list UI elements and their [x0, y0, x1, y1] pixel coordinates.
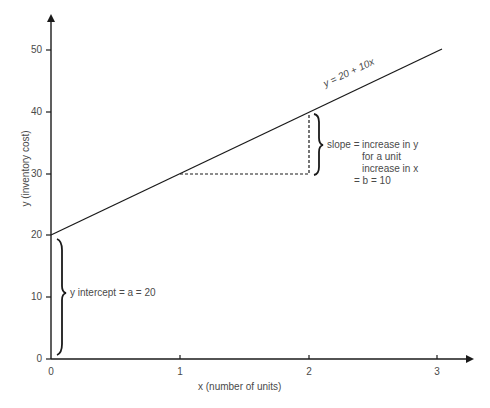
intercept-brace — [57, 239, 66, 355]
y-axis-title: y (inventory cost) — [20, 121, 31, 217]
slope-line-3: increase in x — [362, 163, 418, 174]
slope-brace — [314, 114, 323, 175]
x-axis-title: x (number of units) — [198, 381, 281, 392]
y-tick-label: 20 — [12, 229, 42, 240]
x-tick-label: 0 — [41, 366, 61, 377]
y-tick-label: 40 — [12, 106, 42, 117]
x-tick-label: 3 — [427, 366, 447, 377]
x-tick-label: 2 — [299, 366, 319, 377]
y-axis-ticks — [46, 50, 51, 359]
slope-label: slope = — [327, 139, 360, 150]
slope-value: = b = 10 — [354, 175, 391, 186]
x-tick-label: 1 — [170, 366, 190, 377]
slope-line-1: increase in y — [362, 139, 418, 150]
slope-line-2: for a unit — [362, 151, 401, 162]
intercept-label: y intercept = a = 20 — [70, 287, 156, 298]
y-tick-label: 0 — [12, 353, 42, 364]
chart-canvas — [0, 0, 490, 408]
y-tick-label: 50 — [12, 44, 42, 55]
y-tick-label: 10 — [12, 291, 42, 302]
